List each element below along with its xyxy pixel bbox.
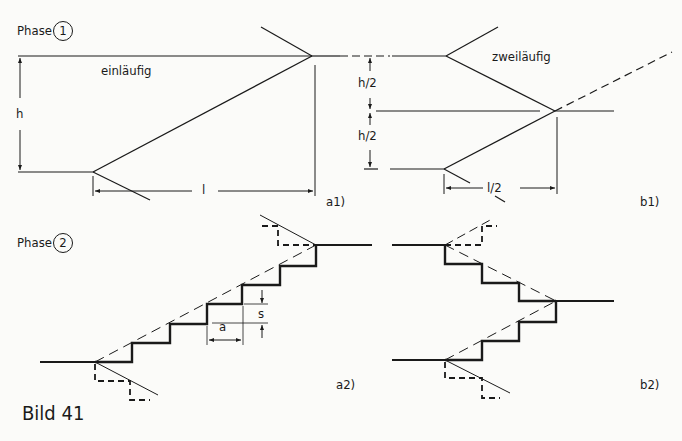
b1-title: zweiläufig (492, 50, 551, 63)
b1-dim-h-lower: h/2 (358, 129, 377, 142)
a2-single-flight-steps (40, 215, 372, 400)
b1-dim-h-upper: h/2 (358, 76, 377, 89)
b2-two-flight-steps (392, 219, 614, 398)
a1-title: einläufig (101, 64, 152, 77)
phase-2-number-circle: 2 (53, 233, 73, 253)
phase-1-number-circle: 1 (53, 21, 73, 41)
phase-1-label: Phase1 (17, 21, 73, 41)
a2-dim-s: s (258, 307, 264, 320)
stair-diagram-figure: Phase1 Phase2 einläufig h l a1) zweiläuf… (0, 0, 682, 441)
figure-caption: Bild 41 (22, 403, 84, 423)
a1-tag: a1) (326, 195, 345, 208)
phase-2-label: Phase2 (17, 233, 73, 253)
phase-1-text: Phase (17, 23, 52, 38)
b1-tag: b1) (640, 195, 659, 208)
a2-tag: a2) (336, 378, 355, 391)
phase-2-text: Phase (17, 235, 52, 250)
a1-single-flight-schematic (18, 27, 340, 200)
a1-dim-h: h (16, 107, 23, 120)
b2-tag: b2) (640, 378, 659, 391)
a1-dim-l: l (202, 183, 205, 196)
b1-dim-l-half: l/2 (487, 181, 502, 194)
a2-dim-a: a (219, 320, 226, 333)
